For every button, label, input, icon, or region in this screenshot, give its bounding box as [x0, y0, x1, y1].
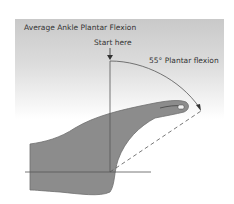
start-arrow-icon — [107, 55, 113, 60]
diagram-title: Average Ankle Plantar Flexion — [24, 23, 136, 32]
arc-arrowhead — [196, 104, 201, 111]
start-label: Start here — [94, 38, 132, 47]
foot-shape — [30, 101, 188, 195]
angle-label: 55° Plantar flexion — [149, 56, 219, 65]
flexion-arc — [110, 61, 199, 107]
toenail — [178, 105, 184, 109]
